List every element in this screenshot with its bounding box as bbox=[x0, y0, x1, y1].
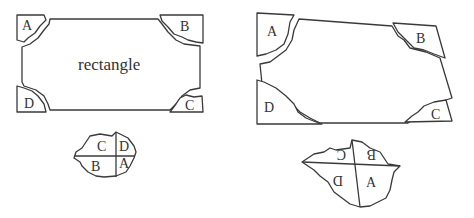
left-assembled-shape: C D B A bbox=[74, 132, 136, 177]
left-label-a: A bbox=[22, 18, 33, 33]
left-label-c: C bbox=[185, 98, 194, 113]
right-assembled-label-a: A bbox=[366, 175, 377, 190]
right-assembled-label-c: C bbox=[337, 147, 346, 162]
right-label-d: D bbox=[264, 100, 274, 115]
right-label-b: B bbox=[416, 31, 425, 46]
left-label-b: B bbox=[180, 19, 189, 34]
left-assembled-label-d: D bbox=[119, 139, 129, 154]
left-center-label: rectangle bbox=[78, 55, 140, 74]
right-assembled-shape: C B D A bbox=[302, 140, 400, 207]
left-assembled-label-a: A bbox=[119, 156, 130, 171]
torn-corners-diagram: A B C D rectangle C D B A A B C D bbox=[0, 0, 474, 218]
left-label-d: D bbox=[24, 96, 34, 111]
right-assembled-label-d: D bbox=[333, 173, 343, 188]
right-quad-figure: A B C D bbox=[257, 13, 452, 124]
left-assembled-label-c: C bbox=[97, 139, 106, 154]
left-assembled-label-b: B bbox=[91, 159, 100, 174]
left-rectangle-figure: A B C D rectangle bbox=[17, 15, 203, 113]
right-assembled-label-b: B bbox=[367, 147, 376, 162]
right-label-a: A bbox=[267, 24, 278, 39]
right-label-c: C bbox=[431, 107, 440, 122]
right-assembled-outline bbox=[302, 140, 400, 207]
